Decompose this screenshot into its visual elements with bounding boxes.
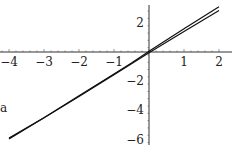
stray-mark: a [0,101,7,115]
y-ticks: 2−2−4−6 [126,11,149,146]
y-tick-label: −6 [126,133,144,147]
x-tick-label: −1 [105,55,123,69]
x-tick-label: 1 [180,55,188,69]
x-tick-label: −3 [35,55,53,69]
x-tick-label: −4 [0,55,18,69]
series-line-curve-upper [9,7,219,138]
chart: −4−3−2−112 2−2−4−6 a [0,0,232,149]
y-tick-label: −4 [126,103,144,117]
y-tick-label: −2 [126,74,144,88]
x-tick-label: 2 [215,55,223,69]
y-tick-label: 2 [136,16,144,30]
x-tick-label: −2 [70,55,88,69]
series-line-curve-lower [9,10,219,138]
series-lines [9,7,219,139]
